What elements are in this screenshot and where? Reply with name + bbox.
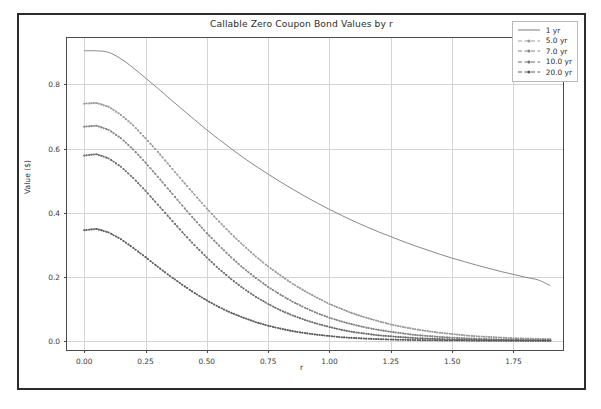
y-tick-label: 0.4 [48, 208, 60, 217]
x-tick-mark [452, 350, 453, 353]
x-tick-mark [207, 350, 208, 353]
x-tick-label: 0.50 [199, 357, 215, 366]
y-tick-label: 0.0 [48, 336, 60, 345]
x-tick-label: 0.25 [137, 357, 153, 366]
x-tick-label: 1.50 [444, 357, 460, 366]
x-tick-label: 1.25 [383, 357, 399, 366]
x-tick-mark [268, 350, 269, 353]
y-tick-mark [64, 213, 67, 214]
x-tick-label: 1.00 [321, 357, 337, 366]
legend-label: 20.0 yr [546, 68, 572, 77]
y-tick-label: 0.8 [48, 80, 60, 89]
legend-line-swatch [517, 46, 541, 56]
y-tick-mark [64, 149, 67, 150]
x-tick-mark [329, 350, 330, 353]
legend-item[interactable]: 5.0 yr [517, 36, 572, 47]
x-tick-label: 0.00 [76, 357, 92, 366]
legend-label: 10.0 yr [546, 57, 572, 66]
legend-label: 5.0 yr [546, 36, 568, 45]
y-axis-label: Value ($) [23, 160, 32, 194]
y-tick-mark [64, 84, 67, 85]
x-tick-label: 0.75 [260, 357, 276, 366]
legend-line-swatch [517, 67, 541, 77]
x-tick-mark [391, 350, 392, 353]
legend: 1 yr5.0 yr7.0 yr10.0 yr20.0 yr [512, 21, 578, 82]
legend-item[interactable]: 7.0 yr [517, 46, 572, 57]
legend-line-swatch [517, 25, 541, 35]
y-tick-label: 0.6 [48, 144, 60, 153]
y-ticks: 0.00.20.40.60.8 [67, 38, 563, 350]
figure-frame: Callable Zero Coupon Bond Values by r Va… [17, 13, 586, 390]
legend-label: 1 yr [546, 26, 560, 35]
legend-item[interactable]: 20.0 yr [517, 67, 572, 78]
x-tick-mark [146, 350, 147, 353]
y-tick-label: 0.2 [48, 272, 60, 281]
x-tick-label: 1.75 [505, 357, 521, 366]
legend-item[interactable]: 10.0 yr [517, 57, 572, 68]
x-tick-mark [84, 350, 85, 353]
y-tick-mark [64, 277, 67, 278]
y-tick-mark [64, 341, 67, 342]
x-tick-mark [513, 350, 514, 353]
plot-area: 0.000.250.500.751.001.251.501.75 0.00.20… [66, 37, 564, 351]
chart-title: Callable Zero Coupon Bond Values by r [19, 18, 584, 29]
legend-line-swatch [517, 36, 541, 46]
legend-line-swatch [517, 57, 541, 67]
x-axis-label: r [19, 363, 584, 372]
legend-label: 7.0 yr [546, 47, 568, 56]
legend-item[interactable]: 1 yr [517, 25, 572, 36]
